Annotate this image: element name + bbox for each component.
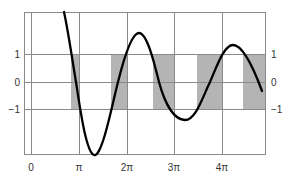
y-tick-label: 1 <box>271 49 277 60</box>
shaded-band <box>243 54 266 109</box>
x-tick-label: 0 <box>28 162 34 173</box>
y-tick-label: 0 <box>14 77 20 88</box>
x-tick-label: 3π <box>168 162 181 173</box>
x-tick-label: 2π <box>121 162 134 173</box>
shaded-bands <box>71 54 266 109</box>
y-tick-label: 0 <box>271 77 277 88</box>
x-tick-label: 4π <box>216 162 229 173</box>
shaded-band <box>153 54 174 109</box>
plot-frame <box>25 13 266 155</box>
y-tick-label: −1 <box>271 104 283 115</box>
y-tick-label: −1 <box>9 104 21 115</box>
chart: 0 π 2π 3π 4π 1 0 −1 1 0 −1 <box>0 0 292 181</box>
y-tick-label: 1 <box>14 49 20 60</box>
x-tick-label: π <box>76 162 83 173</box>
y-axis-labels-left: 1 0 −1 <box>9 49 21 115</box>
x-axis-labels: 0 π 2π 3π 4π <box>28 162 228 173</box>
grid <box>24 12 266 155</box>
y-axis-labels-right: 1 0 −1 <box>271 49 283 115</box>
